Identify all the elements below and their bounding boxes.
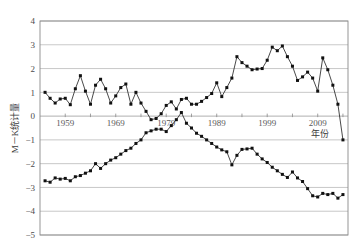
y-tick-label--1: −1 <box>25 135 35 145</box>
series-marker-uf <box>124 83 127 86</box>
series-marker-uf <box>271 46 274 49</box>
series-marker-uf <box>64 97 67 100</box>
series-marker-ub <box>261 157 264 160</box>
series-marker-uf <box>79 74 82 77</box>
series-marker-uf <box>54 102 57 105</box>
series-marker-ub <box>64 177 67 180</box>
series-marker-uf <box>321 56 324 59</box>
y-axis-tick-labels: 43210−1−2−3−4−5 <box>25 16 35 240</box>
series-line-ub <box>45 113 343 199</box>
series-marker-ub <box>59 178 62 181</box>
series-marker-ub <box>170 124 173 127</box>
series-marker-ub <box>246 147 249 150</box>
y-tick-label-0: 0 <box>31 111 36 121</box>
series-marker-ub <box>205 138 208 141</box>
x-tick-label-1969: 1969 <box>107 118 126 128</box>
series-marker-ub <box>316 195 319 198</box>
series-marker-uf <box>99 78 102 81</box>
series-marker-ub <box>74 175 77 178</box>
series-marker-uf <box>195 103 198 106</box>
series-marker-uf <box>59 97 62 100</box>
series-marker-uf <box>170 100 173 103</box>
series-marker-ub <box>129 147 132 150</box>
series-marker-ub <box>271 166 274 169</box>
series-marker-ub <box>306 187 309 190</box>
series-marker-ub <box>336 197 339 200</box>
series-marker-uf <box>139 102 142 105</box>
series-marker-uf <box>256 68 259 71</box>
series-marker-ub <box>331 192 334 195</box>
series-marker-uf <box>261 67 264 70</box>
series-marker-uf <box>286 55 289 58</box>
series-marker-uf <box>240 61 243 64</box>
series-marker-ub <box>104 162 107 165</box>
series-marker-ub <box>215 146 218 149</box>
series-marker-uf <box>316 90 319 93</box>
series-marker-uf <box>190 103 193 106</box>
series-marker-ub <box>185 122 188 125</box>
series-marker-ub <box>225 150 228 153</box>
y-tick-label--2: −2 <box>25 159 35 169</box>
x-tick-label-2009: 2009 <box>309 118 328 128</box>
series-marker-uf <box>246 65 249 68</box>
series-marker-ub <box>139 138 142 141</box>
series-marker-uf <box>225 86 228 89</box>
series-marker-ub <box>251 147 254 150</box>
series-marker-ub <box>119 153 122 156</box>
series-marker-ub <box>296 176 299 179</box>
y-tick-label-3: 3 <box>31 40 36 50</box>
y-axis-title: M－K统计量 <box>9 103 20 154</box>
series-marker-ub <box>291 170 294 173</box>
series-marker-ub <box>286 176 289 179</box>
series-marker-uf <box>109 102 112 105</box>
series-marker-ub <box>240 148 243 151</box>
series-line-uf <box>45 46 343 140</box>
series-marker-uf <box>155 117 158 120</box>
series-marker-uf <box>94 84 97 87</box>
series-marker-ub <box>109 159 112 162</box>
series-marker-uf <box>230 77 233 80</box>
y-tick-label--4: −4 <box>25 206 35 216</box>
series-marker-ub <box>89 169 92 172</box>
series-marker-ub <box>311 194 314 197</box>
series-marker-uf <box>84 90 87 93</box>
series-marker-uf <box>74 87 77 90</box>
series-marker-uf <box>296 79 299 82</box>
y-tick-label--5: −5 <box>25 230 35 240</box>
series-marker-ub <box>195 132 198 135</box>
series-marker-ub <box>160 128 163 131</box>
series-marker-uf <box>251 68 254 71</box>
series-marker-ub <box>165 130 168 133</box>
series-marker-uf <box>104 87 107 90</box>
y-tick-label-1: 1 <box>31 88 36 98</box>
series-marker-ub <box>44 179 47 182</box>
series-marker-uf <box>89 103 92 106</box>
series-marker-uf <box>69 103 72 106</box>
series-marker-ub <box>256 153 259 156</box>
series-marker-ub <box>341 193 344 196</box>
series-marker-ub <box>281 173 284 176</box>
series-marker-uf <box>180 98 183 101</box>
series-marker-uf <box>281 44 284 47</box>
series-marker-uf <box>235 55 238 58</box>
series-marker-ub <box>266 161 269 164</box>
series-marker-ub <box>210 142 213 145</box>
series-marker-uf <box>331 84 334 87</box>
series-marker-uf <box>150 118 153 121</box>
series-marker-ub <box>235 154 238 157</box>
series-marker-ub <box>200 135 203 138</box>
series-marker-uf <box>301 75 304 78</box>
series-marker-ub <box>321 192 324 195</box>
series-marker-uf <box>114 94 117 97</box>
series-marker-ub <box>190 127 193 130</box>
series-marker-ub <box>276 169 279 172</box>
series-marker-uf <box>129 103 132 106</box>
series-marker-ub <box>155 128 158 131</box>
series-marker-uf <box>134 91 137 94</box>
series-marker-uf <box>165 104 168 107</box>
series-marker-ub <box>180 111 183 114</box>
series-marker-uf <box>119 86 122 89</box>
series-marker-ub <box>220 148 223 151</box>
series-marker-ub <box>134 142 137 145</box>
series-marker-uf <box>210 92 213 95</box>
